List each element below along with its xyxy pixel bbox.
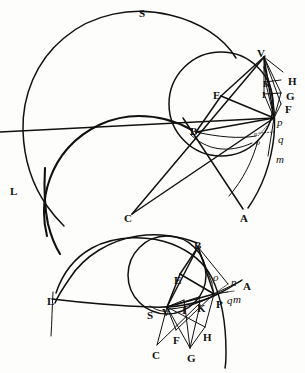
label-B-upper: B xyxy=(190,126,197,137)
label-K-upper: K xyxy=(263,80,270,89)
label-p-upper: p xyxy=(277,117,283,128)
label-L-lower: L xyxy=(47,296,54,307)
upper-line-C-V xyxy=(132,56,265,214)
label-C-upper: C xyxy=(124,213,132,224)
label-I-upper: I xyxy=(262,91,266,100)
upper-line-E-V xyxy=(221,57,264,96)
upper-tick-I-G xyxy=(264,93,281,94)
lower-line-B-E xyxy=(180,247,198,274)
label-H-upper: H xyxy=(288,76,297,87)
label-m-upper: m xyxy=(276,154,284,165)
label-K-lower: K xyxy=(197,303,206,314)
label-o-lower: o xyxy=(213,272,219,283)
label-B-lower: B xyxy=(194,240,201,251)
upper-inner-spiral-arc xyxy=(44,116,192,236)
label-A-upper: A xyxy=(240,213,248,224)
label-V-upper: V xyxy=(257,48,265,59)
label-G-upper: G xyxy=(286,91,295,102)
label-q-upper: q xyxy=(278,134,284,145)
upper-line-B-E xyxy=(196,96,221,132)
label-E-upper: E xyxy=(213,90,220,101)
label-A-lower: A xyxy=(243,281,251,292)
label-G-lower: G xyxy=(187,353,196,364)
label-o-upper: o xyxy=(256,139,260,147)
label-H-lower: H xyxy=(203,332,212,343)
geometric-figure: S V H G F K I E B p q n o m L C A B E o … xyxy=(0,0,305,373)
label-F-lower: F xyxy=(173,335,180,346)
label-m-lower: m xyxy=(233,294,241,305)
label-S-upper: S xyxy=(139,8,145,19)
label-I-lower: I xyxy=(182,305,186,316)
label-V-lower: V xyxy=(162,307,170,318)
label-q-lower: q xyxy=(227,295,233,306)
label-E-lower: E xyxy=(174,275,181,286)
label-L-upper: L xyxy=(10,186,17,197)
label-S-lower: S xyxy=(147,310,153,321)
upper-outer-spiral-arc xyxy=(23,11,236,226)
label-n-lower: n xyxy=(231,277,237,288)
label-P-lower: P xyxy=(216,299,223,310)
upper-crossing-branch-L xyxy=(44,168,60,254)
label-n-upper: n xyxy=(254,131,258,138)
lower-line-B-V xyxy=(167,247,198,307)
lower-line-B-o xyxy=(198,247,212,283)
label-F-upper: F xyxy=(285,104,292,115)
label-C-lower: C xyxy=(152,350,160,361)
